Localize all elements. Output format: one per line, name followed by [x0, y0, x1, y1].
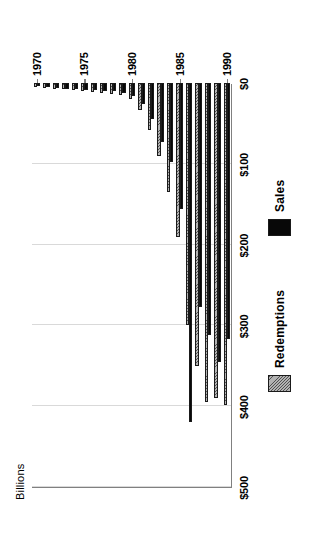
bar-sales [94, 83, 97, 90]
category-axis-tick-label: 1970 [31, 52, 43, 76]
bar-sales [46, 83, 49, 87]
bar-sales [56, 83, 59, 88]
chart-page: Billions RedemptionsSales $0$100$200$300… [0, 0, 314, 560]
bar-sales [113, 83, 116, 91]
bar-sales [122, 83, 125, 93]
category-axis-tick-mark [37, 79, 38, 83]
legend-item: Redemptions [268, 290, 291, 392]
legend-label: Redemptions [273, 290, 287, 368]
value-axis-tick-label: $300 [238, 315, 250, 339]
category-axis-tick-mark [180, 79, 181, 83]
legend-swatch-redemptions [268, 375, 291, 392]
bar-sales [37, 83, 40, 86]
value-axis-tick-label: $200 [238, 234, 250, 258]
bar-sales [151, 83, 154, 119]
bar-sales [170, 83, 173, 162]
bar-sales [208, 83, 211, 335]
bar-sales [199, 83, 202, 307]
value-axis-tick-label: $400 [238, 395, 250, 419]
plot-area [32, 84, 232, 488]
gridline [32, 486, 231, 487]
bar-sales [189, 83, 192, 422]
chart-legend: RedemptionsSales [262, 84, 306, 488]
legend-item: Sales [268, 180, 291, 236]
category-axis-tick-label: 1980 [126, 52, 138, 76]
value-axis-tick-label: $500 [238, 476, 250, 500]
rotated-figure-wrapper: Billions RedemptionsSales $0$100$200$300… [0, 0, 314, 560]
bar-sales [142, 83, 145, 104]
category-axis-tick-mark [227, 79, 228, 83]
bar-sales [180, 83, 183, 209]
bar-sales [132, 83, 135, 96]
value-axis-tick-label: $100 [238, 153, 250, 177]
gridline [32, 324, 231, 325]
legend-swatch-sales [268, 219, 291, 236]
gridline [32, 405, 231, 406]
legend-label: Sales [273, 180, 287, 212]
bar-sales [75, 83, 78, 89]
bar-chart-figure: Billions RedemptionsSales $0$100$200$300… [0, 0, 314, 560]
value-axis-title: Billions [14, 464, 26, 500]
bar-sales [65, 83, 68, 89]
category-axis-tick-label: 1975 [78, 52, 90, 76]
bar-sales [161, 83, 164, 142]
bar-sales [218, 83, 221, 362]
bar-sales [227, 83, 230, 339]
category-axis-tick-mark [84, 79, 85, 83]
category-axis-tick-mark [132, 79, 133, 83]
value-axis-tick-label: $0 [238, 78, 250, 90]
bar-sales [103, 83, 106, 91]
category-axis-tick-label: 1985 [174, 52, 186, 76]
bar-sales [84, 83, 87, 90]
category-axis-tick-label: 1990 [221, 52, 233, 76]
